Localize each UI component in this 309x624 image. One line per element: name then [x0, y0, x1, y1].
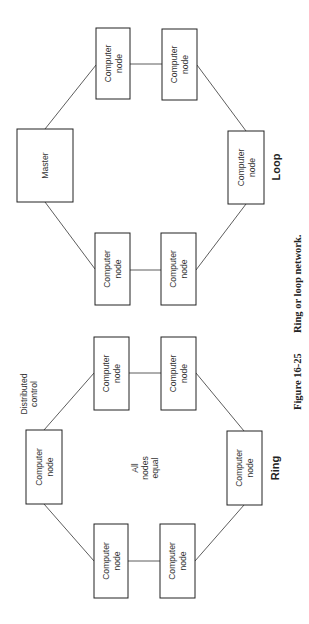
- loop-node-2: Computer node: [162, 29, 197, 100]
- caption-text: Ring or loop network.: [292, 234, 303, 333]
- node-label-line1: Computer: [168, 250, 178, 288]
- ring-node-6: Computer node: [94, 524, 128, 598]
- loop-link-node2-node3: [197, 65, 246, 131]
- center-label-line3: equal: [150, 457, 160, 478]
- node-label-line1: Computer: [169, 45, 179, 83]
- node-label-line2: node: [245, 458, 255, 477]
- node-label-line2: node: [114, 54, 124, 73]
- node-label-line1: Computer: [101, 354, 111, 392]
- center-label-line2: nodes: [140, 456, 150, 479]
- ring-link-4: [195, 505, 244, 561]
- distributed-control-line2: control: [29, 381, 39, 407]
- loop-title: Loop: [270, 153, 282, 180]
- loop-node-5: Computer node: [95, 233, 130, 305]
- loop-node-3: Computer node: [228, 131, 264, 204]
- ring-node-4: Computer node: [227, 431, 262, 505]
- ring-link-6: [44, 504, 94, 561]
- loop-link-node5-master: [45, 202, 95, 269]
- loop-node-4: Computer node: [161, 233, 196, 305]
- loop-network: Master Computer node Computer node Compu…: [17, 28, 282, 305]
- loop-master-box: Master: [17, 129, 73, 202]
- node-label-line2: node: [178, 551, 188, 570]
- node-label-line1: Computer: [103, 44, 113, 82]
- loop-node-1: Computer node: [96, 28, 130, 99]
- node-label-line1: Computer: [234, 449, 244, 487]
- node-label-line2: node: [180, 55, 190, 74]
- node-label-line1: Computer: [236, 148, 246, 186]
- node-label-line2: node: [179, 259, 189, 278]
- ring-link-3: [196, 373, 244, 431]
- ring-network: Computer node Computer node Computer nod…: [19, 337, 281, 598]
- figure-caption: Figure 16-25 Ring or loop network.: [292, 234, 303, 410]
- node-label-line2: node: [112, 364, 122, 383]
- node-label-line2: node: [113, 259, 123, 278]
- ring-title: Ring: [269, 456, 281, 480]
- node-label-line1: Computer: [102, 250, 112, 288]
- loop-link-master-node1: [45, 65, 96, 129]
- node-label-line2: node: [45, 457, 55, 476]
- node-label-line1: Computer: [168, 354, 178, 392]
- ring-node-3: Computer node: [161, 337, 196, 410]
- distributed-control-line1: Distributed: [19, 373, 29, 414]
- ring-node-1: Computer node: [26, 430, 62, 504]
- node-label-line1: Computer: [34, 448, 44, 486]
- ring-link-1: [44, 373, 94, 430]
- master-label: Master: [40, 152, 50, 178]
- loop-link-node3-node4: [196, 204, 246, 270]
- center-label-line1: All: [130, 463, 140, 473]
- ring-node-2: Computer node: [94, 337, 129, 410]
- node-label-line2: node: [247, 158, 257, 177]
- node-label-line1: Computer: [101, 542, 111, 580]
- node-label-line1: Computer: [167, 542, 177, 580]
- ring-node-5: Computer node: [160, 524, 195, 598]
- ring-loop-diagram: Master Computer node Computer node Compu…: [0, 0, 309, 624]
- node-label-line2: node: [112, 551, 122, 570]
- caption-number: Figure 16-25: [292, 353, 303, 410]
- node-label-line2: node: [179, 364, 189, 383]
